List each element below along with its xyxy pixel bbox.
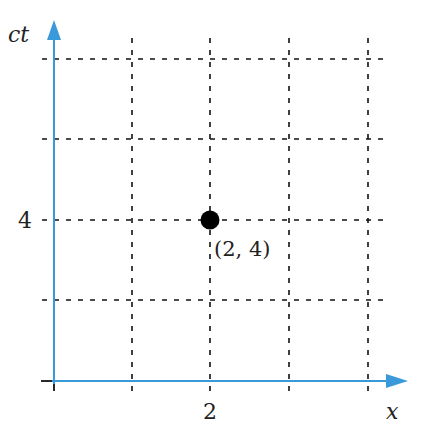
ct-axis-arrow-icon bbox=[47, 20, 61, 40]
horizontal-grid-lines bbox=[42, 59, 390, 300]
event-point bbox=[201, 211, 220, 230]
vertical-grid-lines bbox=[132, 38, 368, 392]
spacetime-diagram: ct x 2 4 (2, 4) bbox=[0, 0, 434, 444]
x-tick-label: 2 bbox=[203, 399, 217, 424]
y-tick-label: 4 bbox=[18, 208, 32, 233]
x-axis-arrow-icon bbox=[386, 374, 408, 388]
y-axis-label: ct bbox=[8, 22, 29, 47]
origin-ticks bbox=[41, 381, 54, 391]
point-label: (2, 4) bbox=[214, 237, 270, 261]
x-axis-label: x bbox=[386, 399, 399, 424]
axes bbox=[47, 20, 408, 388]
